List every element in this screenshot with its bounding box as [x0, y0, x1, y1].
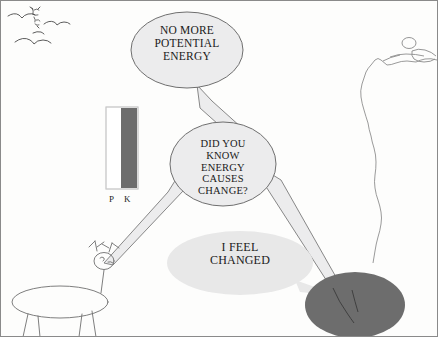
speech-bubble-did-you-know	[170, 122, 276, 206]
cartoon-artwork	[0, 0, 438, 337]
speech-bubble-no-more-potential-energy	[131, 12, 243, 88]
boulder	[305, 272, 405, 337]
cartoon-scene: NO MORE POTENTIAL ENERGY DID YOU KNOW EN…	[0, 0, 438, 337]
energy-bar-chart	[106, 107, 138, 189]
bar-potential-energy	[107, 108, 121, 188]
chart-tick-label-kinetic: K	[124, 194, 131, 204]
bar-kinetic-energy	[121, 108, 137, 188]
chart-tick-label-potential: P	[109, 194, 114, 204]
